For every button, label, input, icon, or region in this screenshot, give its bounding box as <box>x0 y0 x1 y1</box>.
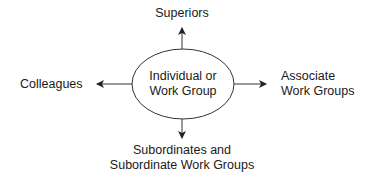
colleagues-text: Colleagues <box>20 77 83 91</box>
associate-line2: Work Groups <box>281 84 354 99</box>
center-line1: Individual or <box>133 69 233 84</box>
label-colleagues: Colleagues <box>20 77 83 92</box>
superiors-text: Superiors <box>155 6 209 20</box>
label-center: Individual or Work Group <box>133 69 233 99</box>
label-superiors: Superiors <box>132 6 232 21</box>
subordinates-line1: Subordinates and <box>102 143 262 158</box>
center-line2: Work Group <box>133 84 233 99</box>
label-associate: Associate Work Groups <box>281 69 354 99</box>
associate-line1: Associate <box>281 69 354 84</box>
subordinates-line2: Subordinate Work Groups <box>102 158 262 173</box>
label-subordinates: Subordinates and Subordinate Work Groups <box>102 143 262 173</box>
